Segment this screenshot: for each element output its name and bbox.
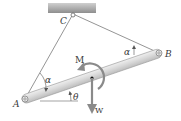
label-c: C <box>60 16 67 26</box>
label-b: B <box>164 49 172 59</box>
label-m: M <box>75 55 84 65</box>
pin-c-icon <box>71 13 75 17</box>
label-alpha-b: α <box>124 47 130 57</box>
pin-b-icon <box>156 50 162 56</box>
ceiling-support <box>48 3 96 13</box>
label-alpha-a: α <box>45 75 51 85</box>
label-a: A <box>12 99 20 109</box>
label-theta: θ <box>73 92 79 102</box>
pin-a-icon <box>22 96 28 102</box>
statics-diagram: C A B M W α α θ <box>0 0 181 121</box>
theta-arc-icon <box>70 93 71 101</box>
label-w: W <box>95 106 104 115</box>
cable-bc <box>73 14 159 53</box>
